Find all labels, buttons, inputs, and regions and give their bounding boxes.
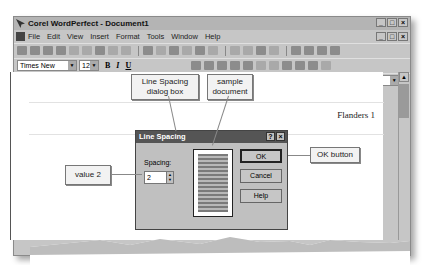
ok-button[interactable]: OK bbox=[240, 149, 282, 163]
spacing-label: Spacing: bbox=[144, 159, 171, 166]
browser-icon[interactable] bbox=[291, 46, 301, 55]
open-icon[interactable] bbox=[30, 46, 40, 55]
margin-guide bbox=[29, 102, 384, 103]
columns-icon[interactable] bbox=[256, 46, 266, 55]
justify-icon[interactable] bbox=[282, 61, 292, 70]
dropdown-arrow-icon[interactable]: ▼ bbox=[90, 61, 98, 70]
doc-close-button[interactable]: × bbox=[398, 32, 408, 41]
spellcheck-icon[interactable] bbox=[143, 46, 153, 55]
title-bar: Corel WordPerfect - Document1 _ □ × bbox=[14, 17, 410, 30]
menu-help[interactable]: Help bbox=[205, 32, 220, 41]
arrow-ok bbox=[288, 155, 310, 156]
window-controls: _ □ × bbox=[376, 18, 408, 27]
undo-icon[interactable] bbox=[108, 46, 118, 55]
size-value: 12 bbox=[82, 62, 90, 69]
document-icon[interactable] bbox=[16, 32, 25, 41]
menu-file[interactable]: File bbox=[28, 32, 40, 41]
font-dropdown[interactable]: Times New Roman ▼ bbox=[17, 60, 77, 71]
doc-restore-button[interactable]: □ bbox=[387, 32, 397, 41]
underline-button[interactable]: U bbox=[125, 61, 131, 70]
help-icon[interactable]: ? bbox=[266, 132, 275, 141]
zoom-icon[interactable] bbox=[304, 46, 314, 55]
copy-icon[interactable] bbox=[82, 46, 92, 55]
menu-insert[interactable]: Insert bbox=[90, 32, 109, 41]
header-text: Flanders 1 bbox=[337, 110, 375, 120]
toolbar-divider bbox=[225, 46, 226, 56]
callout-sample-document: sample document bbox=[207, 74, 253, 100]
window-title: Corel WordPerfect - Document1 bbox=[28, 19, 149, 28]
sample-preview bbox=[193, 149, 233, 217]
align-left-icon[interactable] bbox=[243, 61, 253, 70]
spacing-value: 2 bbox=[147, 174, 151, 181]
table-icon[interactable] bbox=[269, 46, 279, 55]
highlight-icon[interactable] bbox=[208, 46, 218, 55]
justify-all-icon[interactable] bbox=[295, 61, 305, 70]
abc-icon[interactable] bbox=[321, 61, 331, 70]
macro-icon[interactable] bbox=[330, 46, 340, 55]
menu-window[interactable]: Window bbox=[171, 32, 198, 41]
redo-icon[interactable] bbox=[121, 46, 131, 55]
textbox-icon[interactable] bbox=[195, 46, 205, 55]
spin-stepper[interactable]: ▲▼ bbox=[166, 172, 173, 183]
help-button[interactable]: Help bbox=[240, 189, 282, 203]
scroll-thumb[interactable] bbox=[399, 84, 409, 118]
menu-view[interactable]: View bbox=[67, 32, 83, 41]
paste-icon[interactable] bbox=[95, 46, 105, 55]
app-icon bbox=[16, 19, 25, 28]
format-toolbar: Times New Roman ▼ 12 ▼ B I U bbox=[14, 58, 410, 72]
vertical-scrollbar[interactable]: ▲ bbox=[398, 72, 409, 240]
close-button[interactable]: × bbox=[398, 18, 408, 27]
callout-dialog-box: Line Spacing dialog box bbox=[131, 74, 199, 100]
page-icon[interactable] bbox=[191, 61, 201, 70]
menu-bar: File Edit View Insert Format Tools Windo… bbox=[14, 30, 410, 43]
callout-value: value 2 bbox=[65, 165, 111, 185]
minimize-button[interactable]: _ bbox=[376, 18, 386, 27]
grammar-icon[interactable] bbox=[156, 46, 166, 55]
numbering-icon[interactable] bbox=[243, 46, 253, 55]
italic-button[interactable]: I bbox=[116, 61, 119, 70]
clipart-icon[interactable] bbox=[169, 46, 179, 55]
page-icon[interactable] bbox=[204, 61, 214, 70]
print-icon[interactable] bbox=[56, 46, 66, 55]
new-icon[interactable] bbox=[17, 46, 27, 55]
pagesetup-icon[interactable] bbox=[317, 46, 327, 55]
toolbar-divider bbox=[138, 46, 139, 56]
cut-icon[interactable] bbox=[69, 46, 79, 55]
close-icon[interactable]: × bbox=[276, 132, 285, 141]
main-toolbar bbox=[14, 43, 410, 57]
menu-tools[interactable]: Tools bbox=[147, 32, 165, 41]
align-right-icon[interactable] bbox=[269, 61, 279, 70]
save-icon[interactable] bbox=[43, 46, 53, 55]
callout-ok-button: OK button bbox=[310, 147, 360, 163]
document-controls: _ □ × bbox=[376, 32, 408, 41]
size-dropdown[interactable]: 12 ▼ bbox=[79, 60, 99, 71]
dialog-title: Line Spacing bbox=[139, 132, 186, 141]
scroll-up-button[interactable]: ▲ bbox=[399, 72, 409, 82]
align-center-icon[interactable] bbox=[256, 61, 266, 70]
menu-format[interactable]: Format bbox=[116, 32, 140, 41]
dropdown-arrow-icon[interactable]: ▼ bbox=[68, 61, 76, 70]
cancel-button[interactable]: Cancel bbox=[240, 169, 282, 183]
toolbar-divider bbox=[286, 46, 287, 56]
spacing-input[interactable]: 2 ▲▼ bbox=[144, 171, 174, 184]
dialog-title-bar: Line Spacing ? × bbox=[136, 131, 287, 143]
bold-button[interactable]: B bbox=[105, 61, 110, 70]
shape-icon[interactable] bbox=[182, 46, 192, 55]
torn-edge bbox=[30, 237, 410, 265]
arrow-value bbox=[112, 174, 142, 175]
menu-edit[interactable]: Edit bbox=[47, 32, 60, 41]
doc-minimize-button[interactable]: _ bbox=[376, 32, 386, 41]
bullets-icon[interactable] bbox=[230, 46, 240, 55]
preview-lines bbox=[198, 154, 228, 212]
sort-icon[interactable] bbox=[308, 61, 318, 70]
restore-button[interactable]: □ bbox=[387, 18, 397, 27]
page-icon[interactable] bbox=[230, 61, 240, 70]
page-icon[interactable] bbox=[217, 61, 227, 70]
